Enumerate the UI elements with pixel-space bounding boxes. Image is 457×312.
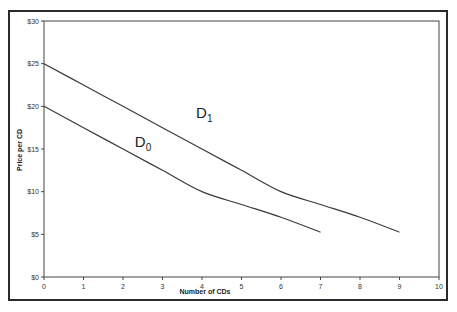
x-tick-label: 3 bbox=[161, 283, 165, 290]
demand-curves: D0D1 bbox=[44, 64, 400, 233]
curve-label-d0: D0 bbox=[135, 133, 152, 153]
x-tick-label: 10 bbox=[435, 283, 443, 290]
demand-chart: $0$5$10$15$20$25$30 012345678910 D0D1 Nu… bbox=[0, 0, 457, 312]
y-tick-label: $20 bbox=[27, 103, 39, 110]
plot-area bbox=[44, 21, 439, 277]
x-tick-label: 1 bbox=[82, 283, 86, 290]
y-axis: $0$5$10$15$20$25$30 bbox=[27, 18, 44, 281]
x-tick-label: 5 bbox=[240, 283, 244, 290]
x-tick-label: 7 bbox=[319, 283, 323, 290]
y-tick-label: $15 bbox=[27, 146, 39, 153]
x-axis-title: Number of CDs bbox=[180, 288, 231, 295]
demand-curve-d0 bbox=[44, 106, 321, 232]
y-tick-label: $30 bbox=[27, 18, 39, 25]
x-tick-label: 9 bbox=[398, 283, 402, 290]
y-tick-label: $10 bbox=[27, 188, 39, 195]
x-tick-label: 0 bbox=[42, 283, 46, 290]
x-tick-label: 2 bbox=[121, 283, 125, 290]
y-tick-label: $5 bbox=[31, 231, 39, 238]
x-tick-label: 6 bbox=[279, 283, 283, 290]
y-axis-title: Price per CD bbox=[16, 129, 24, 171]
y-tick-label: $0 bbox=[31, 274, 39, 281]
x-axis: 012345678910 bbox=[42, 277, 443, 290]
plot-border bbox=[44, 21, 439, 277]
x-tick-label: 8 bbox=[358, 283, 362, 290]
y-tick-label: $25 bbox=[27, 60, 39, 67]
curve-label-d1: D1 bbox=[196, 104, 213, 124]
demand-curve-d1 bbox=[44, 64, 400, 233]
